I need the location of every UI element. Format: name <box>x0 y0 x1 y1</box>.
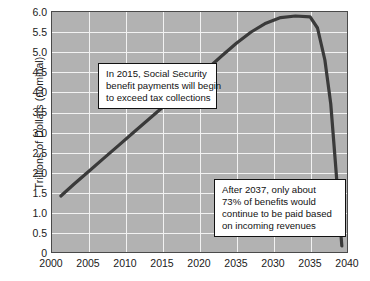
annotation-line: After 2037, only about <box>222 184 339 196</box>
annotation-line: to exceed tax collections <box>106 92 210 104</box>
annotation-line: continue to be paid based <box>222 208 339 220</box>
x-tick-label: 2005 <box>68 258 108 269</box>
x-tick-label: 2020 <box>179 258 219 269</box>
annotation-callout-2015: In 2015, Social Security benefit payment… <box>98 63 217 109</box>
annotation-line: In 2015, Social Security <box>106 68 210 80</box>
x-tick-label: 2015 <box>142 258 182 269</box>
x-tick-label: 2010 <box>105 258 145 269</box>
x-tick-label: 2030 <box>253 258 293 269</box>
x-tick-label: 2000 <box>31 258 71 269</box>
chart-container: Trillions of Dollars (nominal) 6.0 5.5 5… <box>0 0 370 281</box>
annotation-line: benefit payments will begin <box>106 80 210 92</box>
x-tick-label: 2035 <box>216 258 256 269</box>
annotation-line: 73% of benefits would <box>222 196 339 208</box>
annotation-callout-2037: After 2037, only about 73% of benefits w… <box>214 179 346 237</box>
x-tick-label: 2035 <box>290 258 330 269</box>
x-tick-label: 2040 <box>327 258 367 269</box>
annotation-line: on incoming revenues <box>222 220 339 232</box>
x-axis-tick-labels: 2000 2005 2010 2015 2020 2035 2030 2035 … <box>0 0 370 281</box>
